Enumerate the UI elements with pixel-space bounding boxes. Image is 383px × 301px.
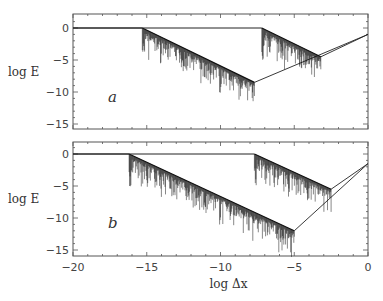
x-axis-label: log Δx bbox=[210, 277, 248, 291]
data-line bbox=[321, 34, 368, 56]
panel-label: a bbox=[108, 88, 117, 106]
x-tick-label: −10 bbox=[209, 261, 232, 274]
data-line bbox=[331, 164, 368, 190]
x-tick-label: −15 bbox=[135, 261, 158, 274]
y-tick-label: −5 bbox=[53, 180, 69, 193]
y-axis-label: log E bbox=[8, 192, 39, 206]
data-noise bbox=[254, 154, 331, 212]
figure: 0−5−10−15log Ea0−5−10−15log Eb−20−15−10−… bbox=[0, 0, 383, 301]
x-tick-label: 0 bbox=[365, 261, 372, 274]
panel-label: b bbox=[108, 214, 118, 232]
y-tick-label: 0 bbox=[62, 148, 69, 161]
y-tick-label: 0 bbox=[62, 22, 69, 35]
y-tick-label: −15 bbox=[46, 118, 69, 131]
x-tick-label: −20 bbox=[61, 261, 84, 274]
data-noise bbox=[129, 154, 294, 257]
y-tick-label: −10 bbox=[46, 212, 69, 225]
y-tick-label: −15 bbox=[46, 244, 69, 257]
y-tick-label: −10 bbox=[46, 86, 69, 99]
x-tick-label: −5 bbox=[286, 261, 302, 274]
y-axis-label: log E bbox=[8, 65, 39, 79]
y-tick-label: −5 bbox=[53, 54, 69, 67]
data-noise bbox=[142, 28, 254, 101]
